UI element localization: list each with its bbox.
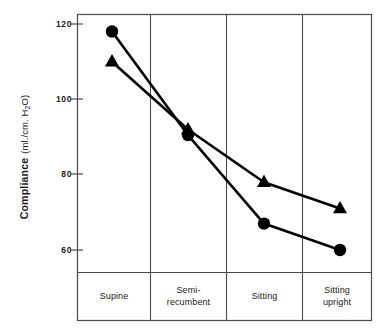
data-point-triangle-0 [105,54,119,66]
category-label-supine: Supine [78,273,150,320]
category-label-text-line1: Sitting [323,285,351,297]
data-point-circle-2 [258,217,270,229]
category-label-sitting-upright: Sitting upright [303,273,371,320]
data-point-triangle-2 [257,175,271,187]
category-label-text: Sitting [252,291,278,303]
category-label-text-line2: upright [323,297,351,309]
data-point-circle-3 [334,244,346,256]
category-label-sitting: Sitting [227,273,302,320]
data-point-circle-0 [106,25,118,37]
compliance-line-chart: Compliance (ml./cm. H2O) 120 100 80 60 S… [0,0,388,334]
category-label-semi-recumbent: Semi- recumbent [151,273,226,320]
category-label-text-line1: Semi- [167,285,210,297]
category-label-text-line2: recumbent [167,297,210,309]
category-label-text: Supine [100,291,129,303]
